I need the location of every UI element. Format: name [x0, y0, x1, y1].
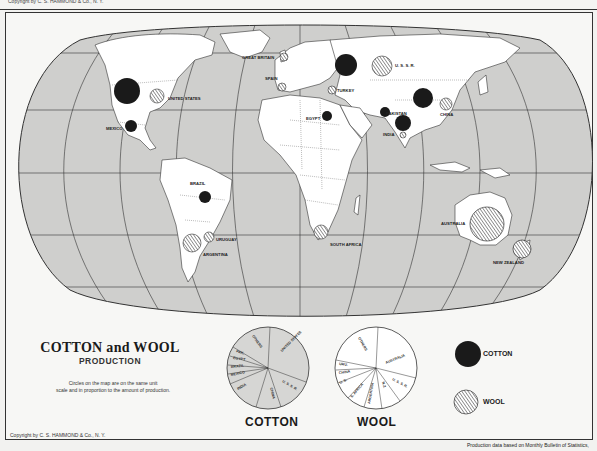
wool-symbol-great-britain: [280, 53, 288, 61]
label-mexico: MEXICO: [106, 126, 123, 131]
label-brazil: BRAZIL: [190, 181, 206, 186]
wool-symbol-india: [400, 132, 406, 138]
wool-symbol-new-zealand: [513, 240, 531, 258]
wool-symbol-ussr: [372, 56, 392, 76]
cotton-symbol-india: [395, 115, 411, 131]
cotton-symbol-brazil: [199, 191, 211, 203]
cotton-symbol-china: [413, 88, 433, 108]
cotton-symbol-united-states: [114, 78, 140, 104]
wool-symbol-australia: [470, 207, 504, 241]
scale-note: Circles on the map are on the same unit …: [28, 380, 198, 394]
title-block: COTTON and WOOL PRODUCTION: [20, 340, 200, 366]
label-south-africa: SOUTH AFRICA: [330, 242, 361, 247]
footer-copyright: Copyright by C. S. HAMMOND & Co., N. Y.: [10, 432, 105, 438]
label-turkey: TURKEY: [337, 88, 354, 93]
wool-pie-title: WOOL: [357, 415, 396, 429]
wool-pie-chart: AUSTRALIA U. S. S. R. N.Z. ARGENTINA S. …: [335, 327, 417, 409]
legend-cotton-symbol: [455, 341, 481, 367]
map-title: COTTON and WOOL: [20, 340, 200, 356]
label-united-states: UNITED STATES: [168, 96, 201, 101]
wool-symbol-uruguay: [204, 232, 214, 242]
data-source-note: Production data based on Monthly Bulleti…: [467, 442, 589, 448]
label-ussr: U. S. S. R.: [395, 63, 415, 68]
cotton-symbol-ussr: [335, 54, 357, 76]
label-china: CHINA: [440, 112, 453, 117]
label-uruguay: URUGUAY: [216, 237, 237, 242]
label-new-zealand: NEW ZEALAND: [493, 260, 524, 265]
cotton-symbol-egypt: [322, 111, 332, 121]
label-argentina: ARGENTINA: [203, 252, 228, 257]
wool-symbol-united-states: [150, 89, 164, 103]
label-egypt: EGYPT: [306, 116, 321, 121]
label-pakistan: PAKISTAN: [386, 111, 407, 116]
cotton-symbol-mexico: [125, 120, 137, 132]
legend-wool-symbol: [454, 390, 478, 414]
label-spain: SPAIN: [265, 76, 278, 81]
cotton-pie-title: COTTON: [245, 415, 298, 429]
scale-note-line-2: scale and in proportion to the amount of…: [28, 387, 198, 394]
wool-symbol-south-africa: [314, 225, 328, 239]
label-australia: AUSTRALIA: [441, 221, 465, 226]
legend-wool-label: WOOL: [483, 398, 505, 405]
wool-pie-label-uruguay: URU.: [339, 362, 348, 367]
label-india: INDIA: [383, 132, 394, 137]
scale-note-line-1: Circles on the map are on the same unit: [28, 380, 198, 387]
wool-symbol-turkey: [328, 86, 336, 94]
wool-symbol-china: [440, 98, 452, 110]
cotton-pie-chart: UNITED STATES U. S. S. R. CHINA INDIA ME…: [227, 327, 309, 409]
map-subtitle: PRODUCTION: [20, 356, 200, 366]
wool-symbol-spain: [278, 83, 286, 91]
legend-cotton-label: COTTON: [483, 350, 512, 357]
label-great-britain: GREAT BRITAIN: [242, 55, 274, 60]
wool-symbol-argentina: [183, 234, 201, 252]
